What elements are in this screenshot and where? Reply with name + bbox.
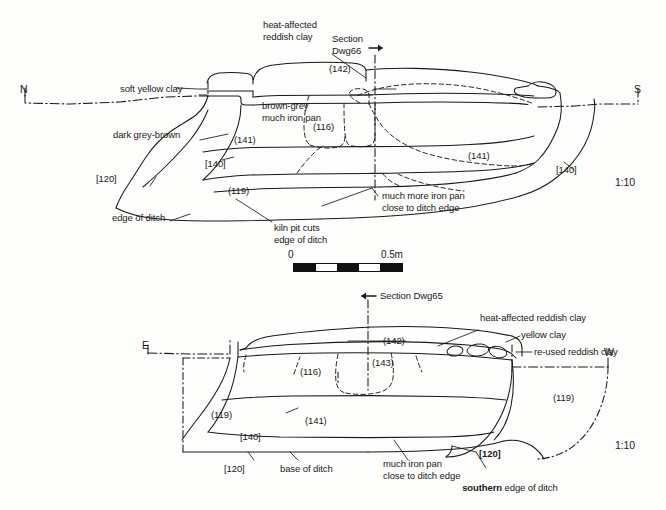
scalebar-zero-label: 0 [288,249,293,261]
bottom-heat-affected-label: heat-affected reddish clay [480,312,586,324]
top-edge-of-ditch-label: edge of ditch [112,212,165,224]
top-datum-right [538,104,638,107]
bottom-section-arrow-head [361,293,366,300]
top-ditch-cut-left [116,96,208,208]
top-141-surface-right [366,163,534,174]
top-dashed-hook [349,89,369,104]
top-dashed-flue-right [352,104,375,147]
top-141-base-mid [270,187,380,189]
top-brown-grey-label: brown-grey much iron pan [262,100,321,123]
leader-dark-grey-brown [200,134,228,140]
bottom-dashed-small-left [244,355,246,372]
top-dashed-cut-left [297,146,323,173]
top-dark-grey-brown-label: dark grey-brown [113,129,180,141]
scalebar-segment-2 [316,264,338,271]
bottom-143-dashed-left [336,354,346,393]
bottom-context-143: (143) [372,357,394,369]
bottom-ditch-right-lip [504,440,544,459]
top-heat-affected-label: heat-affected reddish clay [263,19,317,42]
bottom-datum-box-left [183,358,230,452]
top-dashed-pit-bottom [310,136,345,148]
section-drawing-canvas [0,0,666,510]
bottom-ditch-right-joint [446,446,452,457]
top-kiln-block-left-outline [207,72,253,84]
leader-120-b-left [248,452,254,460]
bottom-southern-rest: edge of ditch [502,482,558,493]
leader-kiln-pit [236,199,272,222]
top-dashed-cut-r1 [383,174,400,186]
top-kiln-pit-label: kiln pit cuts edge of ditch [274,222,327,245]
top-context-120: [120] [96,173,117,185]
bottom-yellow-clay-label: yellow clay [521,329,566,341]
bottom-datum-right [512,358,608,367]
top-context-116: (116) [313,121,334,133]
bottom-reused-reddish-clay-label: re-used reddish clay [534,346,618,358]
top-compass-south: S [634,84,641,96]
bottom-context-141: (141) [305,415,327,427]
bottom-ditch-right-119 [446,367,512,457]
scalebar-segment-4 [359,264,381,271]
top-kiln-right-tip [538,86,560,93]
top-band-right [366,102,528,104]
scalebar-segment-3 [337,264,359,271]
leader-much-more-iron [322,188,372,206]
leader-heat-affected-b [438,330,478,346]
top-dashed-flue-left [344,104,352,147]
leader-much-iron-pan-b [394,440,408,460]
bottom-base-of-ditch-label: base of ditch [280,463,333,475]
top-scale-ratio: 1:10 [615,177,635,189]
bottom-dashed-small-right [416,356,422,372]
bottom-116-141-interface [222,396,506,400]
bottom-context-120-left: [120] [224,463,245,475]
top-context-140-left: [140] [205,158,226,170]
bottom-ditch-left-140 [182,358,230,440]
bottom-left-wall-outer [208,357,238,432]
bottom-context-120-right: [120] [479,448,501,460]
bottom-context-142: (142) [383,335,405,347]
top-context-141-right: (141) [468,150,490,162]
top-soft-yellow-clay-label: soft yellow clay [120,83,182,95]
bottom-datum-right-edge [536,367,608,459]
top-142-mid [253,96,278,98]
top-116-base-left [203,147,366,152]
scale-bar [293,263,403,272]
bottom-section-marker-label: Section Dwg65 [380,290,443,302]
bottom-southern-bold: southern [462,482,502,493]
top-context-119: (119) [228,185,249,197]
top-dashed-cut-r2 [398,174,464,191]
scalebar-segment-5 [380,264,402,271]
top-dashed-diagonal [369,104,512,166]
bottom-datum-left [148,340,230,354]
bottom-context-119-left: (119) [211,409,232,421]
scalebar-max-label: 0.5m [381,249,403,261]
drawing-sheet: N S heat-affected reddish clay Section D… [0,0,666,510]
leader-base-of-ditch [290,452,298,460]
bottom-context-116: (116) [300,366,321,378]
top-compass-north: N [20,84,27,96]
scalebar-segment-1 [294,264,316,271]
top-ditch-cut-right [520,99,595,196]
bottom-southern-edge-of-ditch-label: southern edge of ditch [452,470,558,505]
top-datum-left [25,95,208,104]
bottom-much-iron-pan-label: much iron pan close to ditch edge [383,458,460,481]
top-much-more-iron-pan-label: much more iron pan close to ditch edge [382,190,465,213]
top-right-wall-140 [516,93,561,173]
leader-140-b [286,408,298,413]
bottom-context-140: [140] [240,431,261,443]
top-section-arrow-head [378,45,383,52]
bottom-context-119-right: (119) [553,392,574,404]
bottom-compass-east: E [142,340,149,352]
top-band-left [207,96,253,105]
leader-much-more-iron-2 [372,188,378,196]
top-kiln-cap-right [366,68,538,86]
top-141-surface-left [203,174,366,181]
top-section-marker-label: Section Dwg66 [332,33,363,56]
top-context-141-left: (141) [234,134,256,146]
top-context-142: (142) [329,63,351,75]
top-context-140-right: [140] [556,164,577,176]
bottom-scale-ratio: 1:10 [615,440,635,452]
top-116-base-right [366,136,534,147]
